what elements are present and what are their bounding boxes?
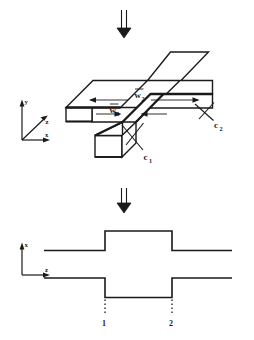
axis-3d-x-label: x (45, 131, 49, 138)
axis-2d-z-label: z (45, 266, 48, 273)
label-c1-text: c (144, 152, 148, 162)
label-w1-text: w (110, 105, 117, 115)
cross-section-marker-2: 2 (169, 300, 173, 329)
label-c2-subscript: 2 (220, 125, 223, 132)
cross-section-marker-2-label: 2 (169, 319, 173, 328)
label-w2: w 2 (135, 89, 145, 102)
axis-3d-z-label: z (46, 118, 49, 125)
planar-cross-section: 1 2 (44, 231, 232, 328)
label-w2-subscript: 2 (142, 95, 145, 102)
label-c2-text: c (214, 120, 218, 130)
waveguide-front-face-left-arm (66, 108, 92, 122)
axis-2d-x-label: x (25, 241, 29, 248)
axes-3d: y z x (20, 98, 50, 143)
waveguide-figure: w 2 w 1 c 2 c 1 y z (0, 0, 254, 340)
axes-2d: x z (20, 241, 50, 278)
axis-3d-y-label: y (25, 98, 29, 105)
cross-waveguide-3d: w 2 w 1 c 2 c 1 (66, 52, 223, 164)
cross-section-marker-1-label: 1 (102, 319, 106, 328)
label-c1-subscript: 1 (149, 157, 152, 164)
cross-section-lower-boundary (44, 278, 232, 298)
middle-double-down-arrow (117, 188, 131, 213)
label-w2-text: w (135, 90, 142, 100)
top-double-down-arrow (117, 10, 131, 38)
cross-section-marker-1: 1 (102, 300, 106, 329)
cross-section-upper-boundary (44, 231, 232, 251)
label-w1-subscript: 1 (117, 110, 120, 117)
